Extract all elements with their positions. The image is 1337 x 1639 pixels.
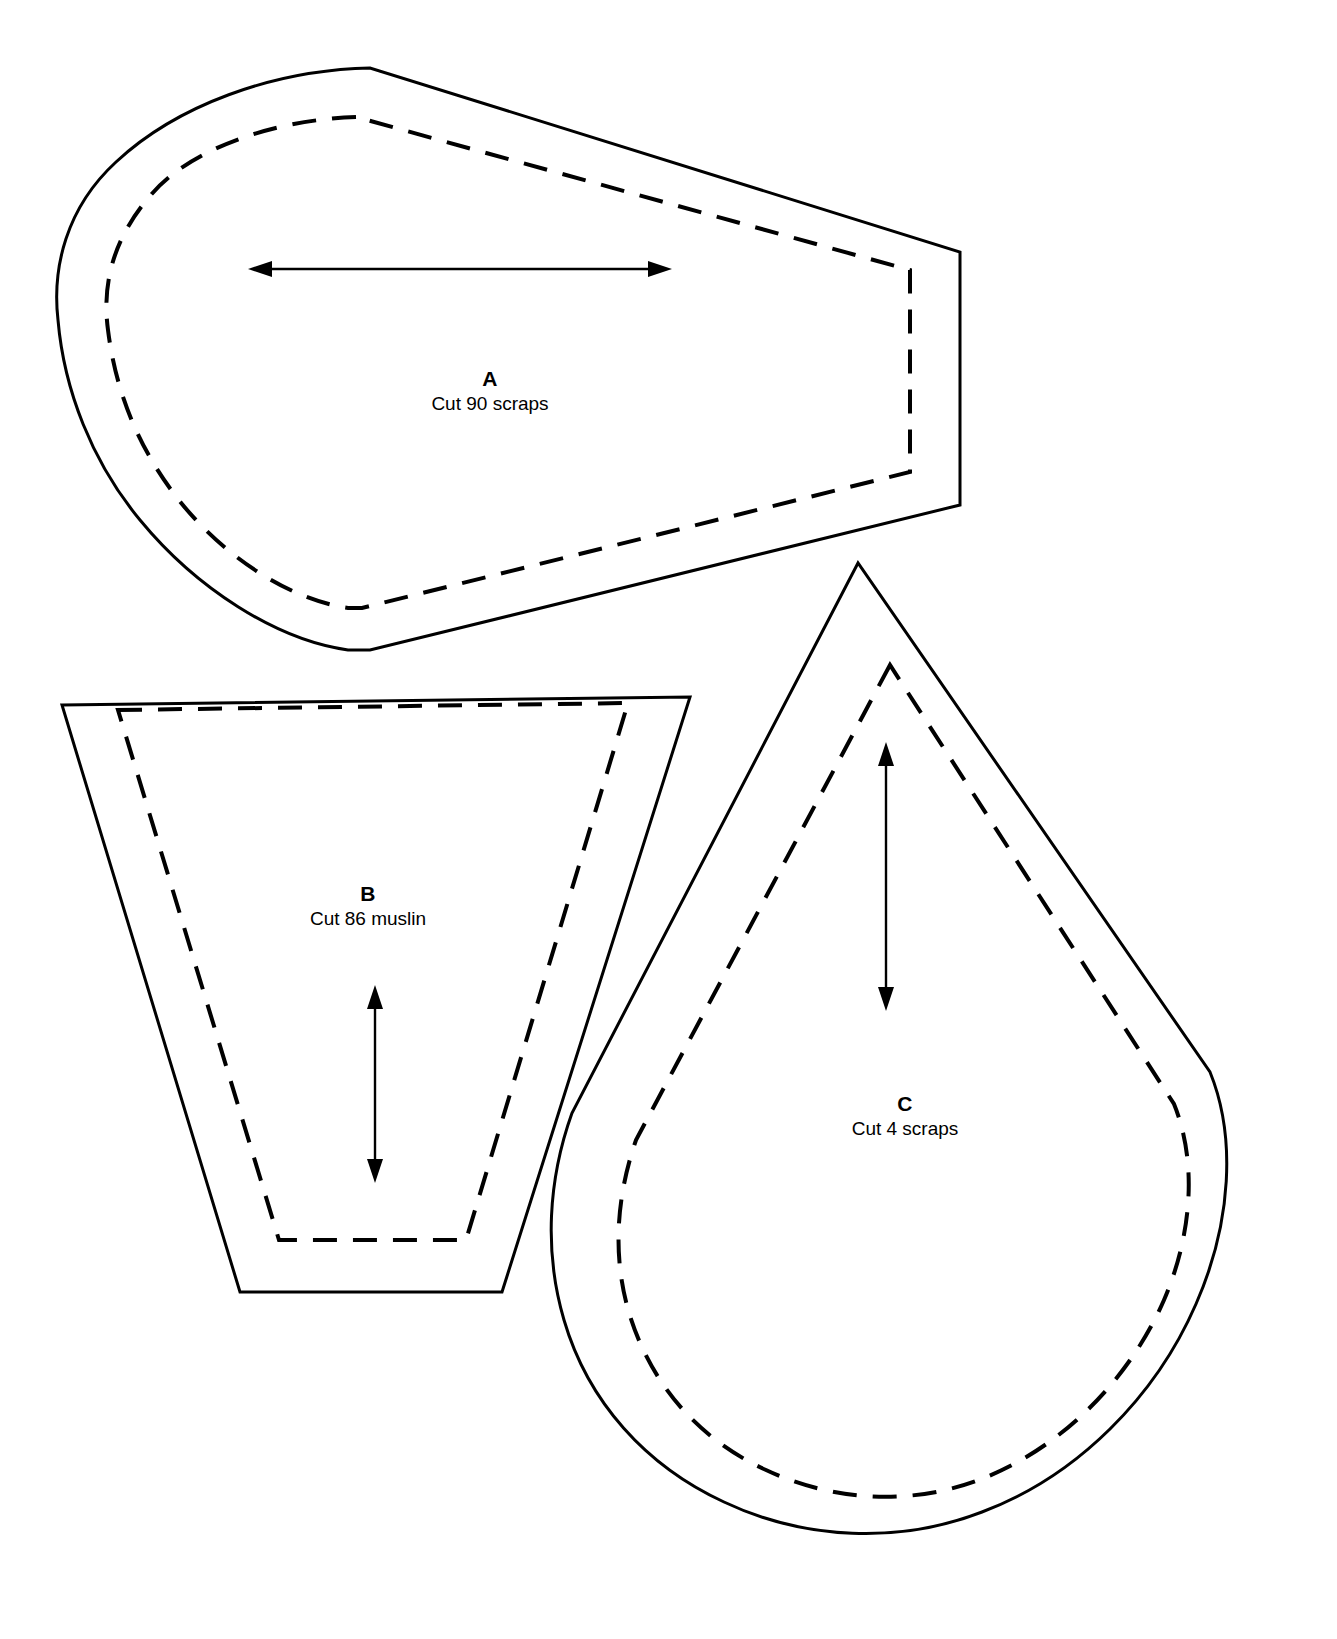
piece-c-seam-line <box>619 665 1189 1497</box>
piece-b-count: Cut 86 muslin <box>268 907 468 931</box>
piece-a-seam-line <box>106 117 910 608</box>
pattern-sheet: A Cut 90 scraps B Cut 86 muslin C Cut 4 … <box>0 0 1337 1639</box>
piece-c-count: Cut 4 scraps <box>805 1117 1005 1141</box>
piece-b-grain-arrow <box>367 985 383 1183</box>
pattern-canvas <box>0 0 1337 1639</box>
piece-c-grain-arrow <box>878 742 894 1011</box>
piece-b-letter: B <box>268 881 468 907</box>
piece-b-group[interactable] <box>62 697 690 1292</box>
piece-a-grain-arrow <box>248 261 672 277</box>
piece-a-group[interactable] <box>57 68 960 650</box>
piece-b-label: B Cut 86 muslin <box>268 881 468 931</box>
piece-a-cut-line <box>57 68 960 650</box>
piece-a-count: Cut 90 scraps <box>390 392 590 416</box>
piece-c-cut-line <box>551 563 1227 1534</box>
piece-c-label: C Cut 4 scraps <box>805 1091 1005 1141</box>
piece-c-letter: C <box>805 1091 1005 1117</box>
piece-a-letter: A <box>390 366 590 392</box>
piece-a-label: A Cut 90 scraps <box>390 366 590 416</box>
piece-c-group[interactable] <box>551 563 1227 1534</box>
